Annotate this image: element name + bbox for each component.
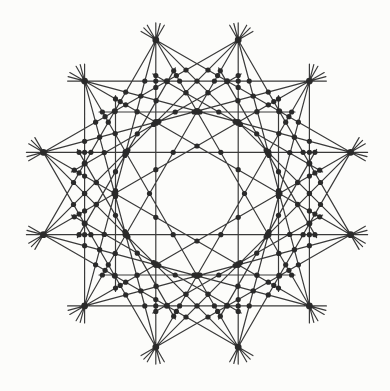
node-dot bbox=[236, 303, 241, 308]
node-dot bbox=[307, 191, 312, 196]
node-dot bbox=[97, 135, 102, 140]
node-dot bbox=[197, 109, 202, 114]
node-dot bbox=[173, 272, 178, 277]
node-dot bbox=[218, 68, 223, 73]
node-dot bbox=[235, 98, 240, 103]
node-dot bbox=[276, 286, 281, 291]
node-dot bbox=[138, 288, 143, 293]
node-dot bbox=[135, 251, 140, 256]
node-dot bbox=[212, 79, 217, 84]
node-dot bbox=[236, 73, 241, 78]
node-dot bbox=[93, 262, 98, 267]
node-dot bbox=[156, 119, 161, 124]
node-dot bbox=[88, 150, 93, 155]
node-dot bbox=[286, 114, 291, 119]
node-dot bbox=[307, 208, 312, 213]
node-dot bbox=[251, 93, 256, 98]
node-dot bbox=[235, 284, 240, 289]
node-dot bbox=[218, 150, 223, 155]
node-dot bbox=[171, 150, 176, 155]
node-dot bbox=[100, 272, 105, 277]
node-dot bbox=[71, 180, 76, 185]
node-dot bbox=[236, 215, 241, 220]
node-dot bbox=[82, 160, 88, 166]
node-dot bbox=[242, 191, 247, 196]
node-dot bbox=[125, 148, 130, 153]
node-dot bbox=[276, 194, 281, 199]
node-dot bbox=[103, 268, 108, 273]
node-dot bbox=[100, 109, 105, 114]
node-dot bbox=[118, 99, 123, 104]
node-dot bbox=[247, 79, 252, 84]
node-dot bbox=[287, 232, 292, 237]
node-dot bbox=[183, 314, 188, 319]
node-dot bbox=[264, 148, 269, 153]
node-dot bbox=[183, 90, 188, 95]
node-dot bbox=[307, 232, 312, 237]
node-dot bbox=[194, 238, 199, 243]
node-dot bbox=[236, 167, 241, 172]
node-dot bbox=[125, 234, 130, 239]
node-dot bbox=[276, 188, 281, 193]
node-dot bbox=[82, 243, 87, 248]
figure-canvas bbox=[0, 0, 390, 391]
node-dot bbox=[142, 79, 147, 84]
node-dot bbox=[266, 90, 271, 95]
node-dot bbox=[122, 153, 127, 158]
node-dot bbox=[77, 150, 82, 155]
node-dot bbox=[171, 232, 176, 237]
node-dot bbox=[102, 150, 107, 155]
node-dot bbox=[236, 85, 241, 90]
node-dot bbox=[312, 232, 317, 237]
node-dot bbox=[205, 292, 210, 297]
node-dot bbox=[247, 303, 252, 308]
figure-node-dots-layer bbox=[40, 37, 354, 351]
figure-lines-layer bbox=[26, 23, 367, 364]
node-dot bbox=[251, 288, 256, 293]
node-dot bbox=[153, 98, 158, 103]
node-dot bbox=[276, 131, 281, 136]
node-dot bbox=[173, 109, 178, 114]
node-dot bbox=[123, 102, 128, 107]
node-dot bbox=[212, 303, 217, 308]
geometric-star-figure bbox=[0, 0, 390, 391]
node-dot bbox=[283, 120, 288, 125]
node-dot bbox=[205, 314, 210, 319]
node-dot bbox=[71, 202, 76, 207]
node-dot bbox=[112, 273, 118, 279]
node-dot bbox=[205, 67, 210, 72]
node-dot bbox=[113, 131, 118, 136]
node-dot bbox=[77, 170, 82, 175]
node-dot bbox=[235, 37, 242, 44]
node-dot bbox=[81, 303, 88, 310]
node-dot bbox=[134, 109, 139, 114]
node-dot bbox=[134, 273, 139, 278]
node-dot bbox=[266, 280, 271, 285]
node-dot bbox=[233, 263, 238, 268]
node-dot bbox=[266, 292, 271, 297]
node-dot bbox=[153, 309, 158, 314]
node-dot bbox=[238, 122, 243, 127]
node-dot bbox=[135, 131, 140, 136]
node-dot bbox=[215, 73, 220, 78]
node-dot bbox=[296, 120, 301, 125]
node-dot bbox=[276, 169, 281, 174]
node-dot bbox=[191, 272, 196, 277]
node-dot bbox=[301, 232, 306, 237]
node-dot bbox=[77, 232, 82, 237]
node-dot bbox=[216, 109, 221, 114]
node-dot bbox=[183, 67, 188, 72]
node-dot bbox=[194, 303, 199, 308]
node-dot bbox=[267, 153, 272, 158]
node-dot bbox=[224, 303, 230, 309]
node-dot bbox=[72, 214, 77, 219]
node-dot bbox=[254, 131, 259, 136]
node-dot bbox=[152, 37, 159, 44]
node-dot bbox=[306, 160, 312, 166]
node-dot bbox=[113, 286, 118, 291]
node-dot bbox=[236, 79, 241, 84]
node-dot bbox=[194, 143, 199, 148]
node-dot bbox=[224, 78, 230, 84]
node-dot bbox=[236, 309, 241, 314]
node-dot bbox=[151, 260, 156, 265]
